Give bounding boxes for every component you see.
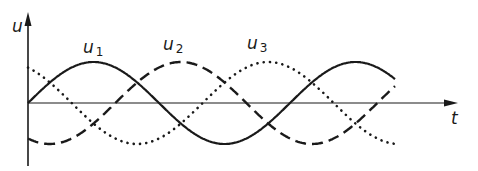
label-u2: u2 xyxy=(163,34,183,56)
y-axis-arrow-icon xyxy=(25,12,32,26)
three-phase-diagram: u t u1 u2 u3 xyxy=(0,0,478,171)
t-axis-arrow-icon xyxy=(444,100,458,107)
label-u1: u1 xyxy=(83,37,103,59)
t-axis-label: t xyxy=(451,108,459,128)
label-u3: u3 xyxy=(247,33,267,55)
y-axis-label: u xyxy=(12,16,23,36)
